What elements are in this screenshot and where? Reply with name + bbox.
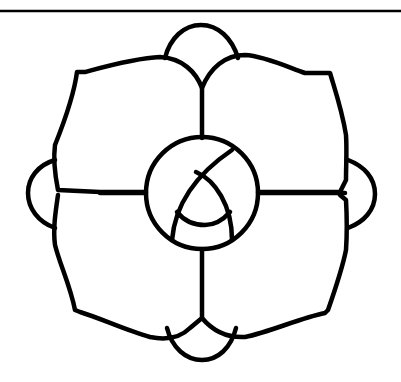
right-bump: [348, 160, 375, 228]
left-bump: [28, 160, 55, 228]
flower-pattern-drawing: [0, 0, 401, 382]
inner-knot-arc-2: [196, 172, 232, 240]
center-circle: [146, 137, 258, 249]
top-left-petal: [54, 57, 202, 192]
inner-knot-arc-3: [177, 212, 230, 225]
top-right-petal: [202, 55, 346, 192]
top-bump: [165, 25, 238, 58]
